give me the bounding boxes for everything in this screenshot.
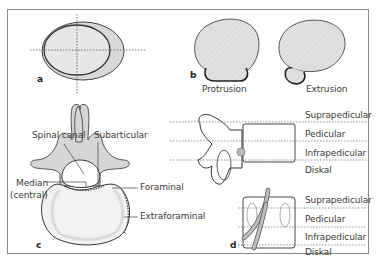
- panel-c-vertebra-axial: [31, 104, 138, 245]
- panel-letter-d: d: [230, 240, 236, 250]
- label-protrusion: Protrusion: [202, 84, 247, 94]
- d-level-infrapedicular: Infrapedicular: [305, 232, 366, 242]
- side-level-infrapedicular: Infrapedicular: [305, 148, 366, 158]
- side-level-diskal: Diskal: [305, 165, 332, 175]
- side-level-suprapedicular: Suprapedicular: [305, 110, 372, 120]
- panel-letter-c: c: [36, 240, 41, 250]
- label-foraminal: Foraminal: [140, 182, 184, 192]
- panel-letter-a: a: [37, 74, 43, 84]
- label-spinal-canal: Spinal canal: [32, 130, 86, 140]
- label-extrusion: Extrusion: [306, 84, 347, 94]
- figure-canvas: a b c d Protrusion Extrusion Spinal cana…: [0, 0, 376, 263]
- label-subarticular: Subarticular: [94, 130, 148, 140]
- label-central: (central): [10, 190, 48, 200]
- d-level-diskal: Diskal: [305, 247, 332, 257]
- panel-b-extrusion-shape: [279, 20, 345, 84]
- label-median: Median: [16, 178, 48, 188]
- side-level-pedicular: Pedicular: [305, 129, 345, 139]
- label-extraforaminal: Extraforaminal: [140, 211, 205, 221]
- panel-a-disc-diagram: [30, 14, 146, 95]
- d-level-suprapedicular: Suprapedicular: [305, 195, 372, 205]
- d-level-pedicular: Pedicular: [305, 214, 345, 224]
- panel-b-protrusion-shape: [195, 19, 259, 81]
- panel-letter-b: b: [190, 70, 196, 80]
